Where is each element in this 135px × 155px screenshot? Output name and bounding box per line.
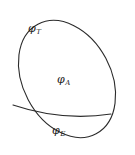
label-phi-t: φT bbox=[28, 19, 41, 36]
label-phi-a: φA bbox=[57, 70, 70, 87]
figure-container: φT φA φE bbox=[0, 0, 135, 155]
label-phi-e-base: φ bbox=[52, 124, 60, 137]
label-phi-a-subscript: A bbox=[65, 79, 70, 87]
label-phi-a-base: φ bbox=[57, 73, 65, 86]
label-phi-e-subscript: E bbox=[60, 130, 65, 138]
label-phi-e: φE bbox=[52, 121, 65, 138]
label-phi-t-subscript: T bbox=[36, 28, 41, 36]
label-phi-t-base: φ bbox=[28, 22, 36, 35]
